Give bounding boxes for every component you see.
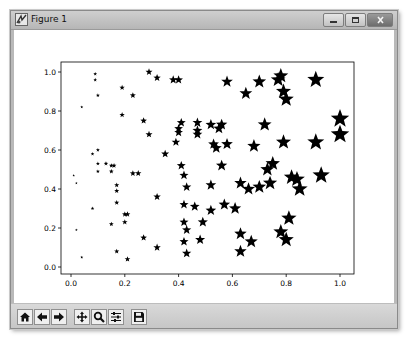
star-marker xyxy=(161,150,169,158)
y-tick-label: 1.0 xyxy=(44,68,56,77)
star-marker xyxy=(153,193,160,200)
star-marker xyxy=(96,148,100,152)
navigation-toolbar xyxy=(11,303,397,328)
x-tick-label: 0.8 xyxy=(280,279,292,288)
star-marker xyxy=(146,68,153,75)
zoom-button[interactable] xyxy=(91,309,107,325)
star-marker xyxy=(91,207,95,210)
x-tick-label: 0.2 xyxy=(119,279,131,288)
star-marker xyxy=(242,182,255,194)
pan-button[interactable] xyxy=(74,309,90,325)
scatter-plot: 0.00.20.40.60.81.00.00.20.40.60.81.0 xyxy=(14,30,394,304)
star-marker xyxy=(234,177,246,189)
minimize-icon xyxy=(324,14,343,26)
move-icon xyxy=(76,311,88,323)
star-marker xyxy=(146,131,153,138)
star-marker xyxy=(190,201,200,210)
magnifier-icon xyxy=(93,311,105,323)
star-marker xyxy=(331,109,349,127)
home-icon xyxy=(19,311,31,323)
star-marker xyxy=(182,225,191,234)
star-marker xyxy=(221,76,233,87)
star-marker xyxy=(179,171,188,180)
star-marker xyxy=(229,202,241,214)
star-marker xyxy=(96,162,100,166)
scatter-markers xyxy=(72,68,349,262)
star-marker xyxy=(206,205,217,215)
star-marker xyxy=(80,256,83,259)
window-controls xyxy=(323,13,393,26)
star-marker xyxy=(130,92,136,98)
arrow-left-icon xyxy=(36,311,48,323)
star-marker xyxy=(174,128,183,136)
star-marker xyxy=(195,234,205,244)
x-tick-label: 0.6 xyxy=(226,279,238,288)
title-bar[interactable]: Figure 1 xyxy=(11,11,397,30)
star-marker xyxy=(114,200,119,205)
star-marker xyxy=(281,210,296,225)
y-tick-label: 0.4 xyxy=(44,185,56,194)
y-tick-label: 0.2 xyxy=(44,224,56,233)
star-marker xyxy=(307,71,324,87)
star-marker xyxy=(192,129,202,138)
subplots-button[interactable] xyxy=(108,309,124,325)
star-marker xyxy=(153,244,160,251)
figure-canvas[interactable]: 0.00.20.40.60.81.00.00.20.40.60.81.0 xyxy=(14,30,394,304)
save-button[interactable] xyxy=(131,309,147,325)
figure-window: Figure 1 0.00.20.40.60.81.00.00.20.40.60… xyxy=(10,10,398,329)
maximize-button[interactable] xyxy=(345,13,366,27)
star-marker xyxy=(182,249,191,258)
star-marker xyxy=(119,85,124,90)
star-marker xyxy=(140,234,147,240)
star-marker xyxy=(253,180,267,193)
star-marker xyxy=(93,72,97,76)
star-marker xyxy=(122,219,128,224)
star-marker xyxy=(307,133,324,149)
star-marker xyxy=(153,74,160,81)
forward-button[interactable] xyxy=(51,309,67,325)
close-button[interactable] xyxy=(367,13,393,27)
star-marker xyxy=(239,87,252,99)
star-marker xyxy=(96,169,100,173)
star-marker xyxy=(179,200,188,209)
minimize-button[interactable] xyxy=(323,13,344,27)
star-marker xyxy=(80,106,83,109)
star-marker xyxy=(75,229,78,231)
star-marker xyxy=(219,199,231,210)
star-marker xyxy=(109,222,114,226)
home-button[interactable] xyxy=(17,309,33,325)
star-marker xyxy=(114,249,119,254)
star-marker xyxy=(276,84,291,98)
floppy-disk-icon xyxy=(133,311,145,323)
star-marker xyxy=(179,237,188,246)
star-marker xyxy=(253,75,267,88)
star-marker xyxy=(75,182,78,184)
x-tick-label: 0.0 xyxy=(65,279,77,288)
back-button[interactable] xyxy=(34,309,50,325)
star-marker xyxy=(130,170,136,176)
y-tick-label: 0.8 xyxy=(44,107,56,116)
star-marker xyxy=(182,182,191,191)
star-marker xyxy=(125,256,131,261)
star-marker xyxy=(216,160,227,171)
star-marker xyxy=(263,176,277,190)
maximize-icon xyxy=(346,14,365,26)
star-marker xyxy=(179,217,188,226)
star-marker xyxy=(313,166,330,182)
star-marker xyxy=(104,161,108,165)
sliders-icon xyxy=(110,311,122,323)
star-marker xyxy=(247,139,260,152)
star-marker xyxy=(177,161,186,169)
y-tick-label: 0.6 xyxy=(44,146,56,155)
y-tick-label: 0.0 xyxy=(44,263,56,272)
star-marker xyxy=(234,245,246,257)
star-marker xyxy=(258,117,272,130)
arrow-right-icon xyxy=(53,311,65,323)
star-marker xyxy=(96,93,100,97)
window-border-right xyxy=(394,30,397,328)
star-marker xyxy=(140,117,147,123)
star-marker xyxy=(331,125,349,143)
star-marker xyxy=(174,75,183,83)
x-tick-label: 0.4 xyxy=(173,279,185,288)
matplotlib-app-icon xyxy=(15,13,28,26)
